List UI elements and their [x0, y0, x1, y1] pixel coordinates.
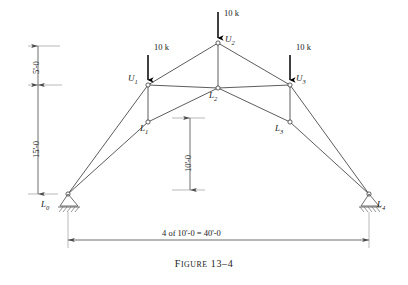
member-L0-L1: [68, 122, 148, 194]
support-left-pin: [58, 194, 80, 212]
load-label-u2: 10 k: [224, 9, 239, 18]
dim-label-center-vertical: 10'-0: [184, 155, 193, 172]
member-L2-U3: [218, 85, 290, 88]
load-arrows: [148, 12, 290, 80]
member-L0-U1: [68, 85, 148, 194]
caption-number: 13–4: [211, 258, 233, 269]
node-label-L0: L0: [41, 200, 49, 211]
node-label-L3: L3: [275, 124, 283, 135]
member-U3-L4: [290, 85, 369, 194]
node-label-U3: U3: [296, 74, 306, 85]
member-L2-L3: [218, 88, 290, 122]
node-label-L1: L1: [140, 124, 148, 135]
member-U2-U3: [218, 43, 290, 85]
member-U1-L2: [148, 85, 218, 88]
node-label-L2: L2: [209, 91, 217, 102]
figure-caption: FIGURE 13–4: [0, 258, 408, 269]
load-label-u3: 10 k: [296, 43, 311, 52]
caption-word: IGURE: [181, 260, 208, 269]
joint-U2: [216, 41, 220, 45]
member-L3-L4: [290, 122, 369, 194]
joint-U3: [288, 83, 292, 87]
truss-joints: [66, 41, 371, 196]
node-label-L4: L4: [377, 200, 385, 211]
dim-label-left-lower: 15'-0: [32, 141, 41, 158]
joint-U1: [146, 83, 150, 87]
truss-members: [68, 43, 369, 194]
load-label-u1: 10 k: [154, 43, 169, 52]
dim-label-left-upper: 5'-0: [32, 61, 41, 74]
member-L1-L2: [148, 88, 218, 122]
node-label-U1: U1: [128, 74, 138, 85]
dim-label-bottom-span: 4 of 10'-0 = 40'-0: [162, 229, 221, 238]
figure-13-4: 10 k 10 k 10 k L0 U1 L1 U2 L2 U3 L3 L4 5…: [0, 0, 408, 285]
joint-L3: [288, 120, 292, 124]
truss-diagram: [0, 0, 408, 285]
node-label-U2: U2: [225, 35, 235, 46]
joint-L2: [216, 86, 220, 90]
